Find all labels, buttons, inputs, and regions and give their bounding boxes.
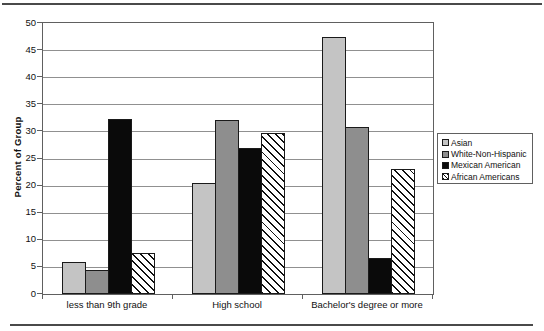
y-tick-label-35: 35: [12, 99, 36, 109]
figure: Percent of Group 05101520253035404550les…: [0, 0, 544, 331]
y-tick-label-40: 40: [12, 72, 36, 82]
y-tick-mark-45: [37, 49, 42, 50]
gridline-45: [43, 50, 433, 51]
legend-label-white-non-hispanic: White-Non-Hispanic: [451, 149, 527, 159]
y-tick-label-10: 10: [12, 234, 36, 244]
x-tick-mark-3: [432, 295, 433, 299]
gridline-35: [43, 104, 433, 105]
bar-asian-high-school: [192, 183, 216, 294]
legend-marker-mexican-american-icon: [442, 162, 449, 169]
y-tick-mark-20: [37, 185, 42, 186]
y-tick-label-30: 30: [12, 126, 36, 136]
bar-african-americans-bachelor-s-degree-or-more: [391, 169, 415, 294]
bar-mexican-american-high-school: [238, 148, 262, 294]
plot-area: [42, 22, 434, 295]
category-label-less-than-9th-grade: less than 9th grade: [42, 299, 172, 311]
legend-marker-asian-icon: [442, 139, 449, 146]
bar-asian-bachelor-s-degree-or-more: [322, 37, 346, 294]
y-tick-label-0: 0: [12, 289, 36, 299]
bar-asian-less-than-9th-grade: [62, 262, 86, 295]
legend-label-african-americans: African Americans: [451, 172, 520, 182]
y-tick-mark-35: [37, 103, 42, 104]
legend-item-mexican-american: Mexican American: [442, 160, 530, 171]
legend: AsianWhite-Non-HispanicMexican AmericanA…: [437, 133, 533, 184]
y-tick-mark-15: [37, 212, 42, 213]
gridline-40: [43, 77, 433, 78]
y-tick-mark-25: [37, 158, 42, 159]
bar-white-non-hispanic-high-school: [215, 120, 239, 295]
y-tick-mark-40: [37, 76, 42, 77]
legend-item-white-non-hispanic: White-Non-Hispanic: [442, 148, 530, 159]
y-tick-label-25: 25: [12, 153, 36, 163]
bottom-rule: [10, 324, 533, 326]
bar-mexican-american-bachelor-s-degree-or-more: [368, 258, 392, 294]
y-tick-label-50: 50: [12, 18, 36, 28]
bar-white-non-hispanic-less-than-9th-grade: [85, 270, 109, 294]
legend-label-asian: Asian: [451, 138, 472, 148]
legend-item-asian: Asian: [442, 137, 530, 148]
category-label-high-school: High school: [172, 299, 302, 311]
legend-marker-african-americans-icon: [442, 173, 449, 180]
bar-white-non-hispanic-bachelor-s-degree-or-more: [345, 127, 369, 294]
y-tick-label-5: 5: [12, 261, 36, 271]
category-label-bachelor-s-degree-or-more: Bachelor's degree or more: [302, 299, 432, 311]
y-tick-label-15: 15: [12, 207, 36, 217]
y-tick-label-20: 20: [12, 180, 36, 190]
legend-item-african-americans: African Americans: [442, 171, 530, 182]
y-tick-mark-50: [37, 22, 42, 23]
bar-african-americans-less-than-9th-grade: [131, 253, 155, 294]
top-rule: [2, 3, 542, 5]
legend-label-mexican-american: Mexican American: [451, 160, 520, 170]
legend-marker-white-non-hispanic-icon: [442, 151, 449, 158]
bar-mexican-american-less-than-9th-grade: [108, 119, 132, 294]
y-tick-mark-10: [37, 239, 42, 240]
bar-african-americans-high-school: [261, 133, 285, 295]
y-tick-mark-30: [37, 130, 42, 131]
y-tick-mark-5: [37, 266, 42, 267]
y-tick-label-45: 45: [12, 45, 36, 55]
y-tick-mark-0: [37, 293, 42, 294]
